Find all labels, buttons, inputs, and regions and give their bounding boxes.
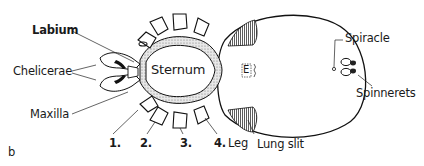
label-leg-3: 3. — [180, 138, 192, 150]
abdomen — [218, 15, 366, 137]
label-leg-1: 1. — [109, 138, 121, 150]
label-leg: Leg — [228, 138, 248, 150]
label-sternum: Sternum — [151, 63, 205, 76]
label-labium: Labium — [32, 25, 78, 37]
label-spinnerets: Spinnerets — [356, 88, 416, 100]
label-leg-4: 4. — [214, 138, 226, 150]
spider-ventral-diagram: Labium Chelicerae Maxilla Sternum E Spir… — [0, 0, 424, 166]
label-maxilla: Maxilla — [30, 109, 69, 121]
label-lung-slit: Lung slit — [257, 139, 304, 151]
mouthparts — [100, 53, 140, 92]
label-leg-2: 2. — [140, 138, 152, 150]
label-chelicerae: Chelicerae — [13, 66, 72, 78]
spiracle — [332, 67, 335, 70]
label-spiracle: Spiracle — [345, 33, 390, 45]
label-epigyne: E — [243, 65, 249, 75]
panel-label: b — [8, 147, 15, 159]
